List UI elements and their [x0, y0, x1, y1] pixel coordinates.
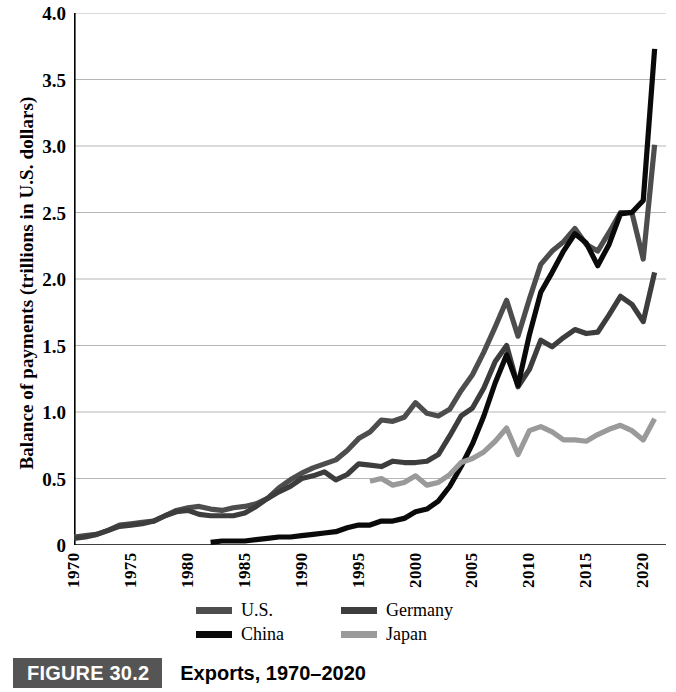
legend-item-japan: Japan	[341, 624, 427, 644]
y-tick-label: 2.5	[8, 204, 66, 223]
x-tick-label: 1995	[351, 552, 367, 602]
x-tick-label: 2005	[464, 552, 480, 602]
legend-swatch-icon	[341, 607, 377, 614]
legend-label: Japan	[386, 624, 427, 645]
x-tick-label: 1970	[66, 552, 82, 602]
figure-caption-title: Exports, 1970–2020	[162, 658, 366, 688]
y-tick-label: 1.5	[8, 337, 66, 356]
figure-number-badge: FIGURE 30.2	[13, 658, 162, 688]
x-tick-label: 2010	[521, 552, 537, 602]
y-tick-label: 2.0	[8, 270, 66, 289]
figure-caption: FIGURE 30.2 Exports, 1970–2020	[13, 658, 366, 688]
x-axis-tick-labels: 1970197519801985199019952000200520102015…	[74, 552, 666, 604]
y-tick-label: 3.0	[8, 137, 66, 156]
y-tick-label: 0	[8, 536, 66, 555]
legend-label: U.S.	[241, 600, 273, 621]
y-tick-label: 0.5	[8, 470, 66, 489]
series-line-china	[211, 49, 655, 542]
legend-swatch-icon	[196, 607, 232, 614]
y-tick-label: 3.5	[8, 71, 66, 90]
x-tick-label: 2015	[578, 552, 594, 602]
x-tick-label: 1985	[237, 552, 253, 602]
x-tick-label: 2020	[635, 552, 651, 602]
x-tick-label: 2000	[408, 552, 424, 602]
plot-area	[74, 13, 666, 545]
x-tick-label: 1990	[294, 552, 310, 602]
legend-item-germany: Germany	[341, 600, 453, 620]
x-tick-label: 1975	[123, 552, 139, 602]
y-tick-label: 4.0	[8, 4, 66, 23]
legend-swatch-icon	[196, 631, 232, 638]
chart-svg	[74, 13, 666, 545]
y-tick-label: 1.0	[8, 403, 66, 422]
legend-label: Germany	[386, 600, 453, 621]
legend-label: China	[241, 624, 284, 645]
legend-swatch-icon	[341, 631, 377, 638]
series-line-japan	[370, 419, 655, 486]
legend-item-china: China	[196, 624, 284, 644]
x-tick-label: 1980	[180, 552, 196, 602]
legend-item-us: U.S.	[196, 600, 273, 620]
series-line-germany	[74, 272, 655, 538]
y-axis-tick-labels: 00.51.01.52.02.53.03.54.0	[0, 0, 66, 560]
chart-legend: U.S.GermanyChinaJapan	[196, 600, 516, 644]
figure-container: Balance of payments (trillions in U.S. d…	[0, 0, 676, 692]
